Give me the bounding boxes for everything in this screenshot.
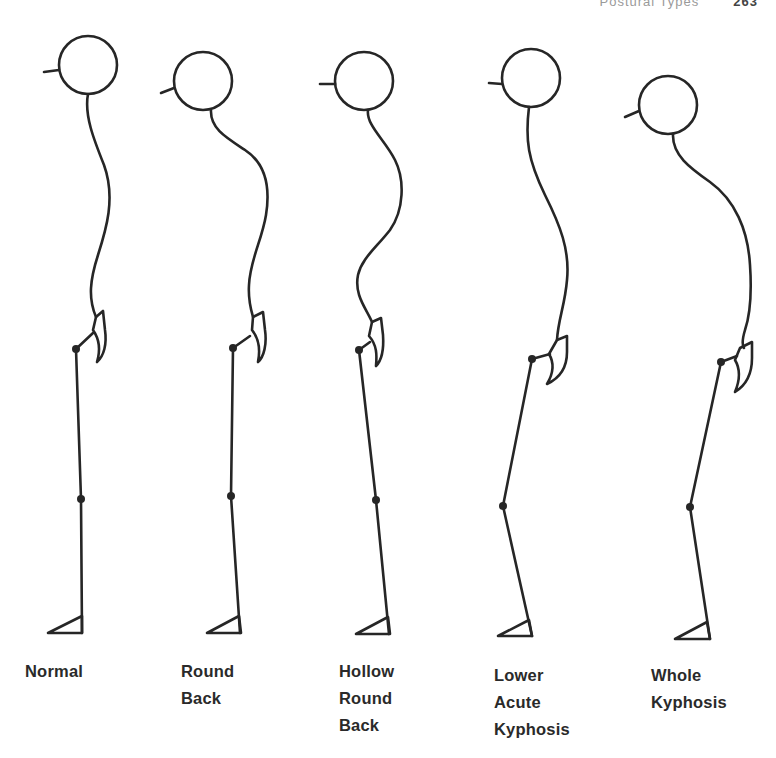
spine-curve <box>357 110 401 322</box>
foot-triangle <box>207 616 241 633</box>
face-line <box>489 83 502 84</box>
foot-triangle <box>48 616 82 633</box>
label-normal: Normal <box>25 658 83 685</box>
leg <box>359 350 389 634</box>
label-lower-acute-kyphosis: Lower Acute Kyphosis <box>494 662 570 743</box>
figure-whole-kyphosis <box>625 76 752 639</box>
posture-diagram: Postural Types263 <box>0 0 776 758</box>
knee-joint <box>372 496 380 504</box>
pelvis-shape <box>93 311 106 362</box>
label-round-back: Round Back <box>181 658 234 712</box>
head-icon <box>174 52 232 110</box>
knee-joint <box>227 492 235 500</box>
pelvis-shape <box>252 312 266 362</box>
face-line <box>161 88 174 93</box>
label-hollow-round-back: Hollow Round Back <box>339 658 394 739</box>
foot-triangle <box>498 620 532 636</box>
leg <box>503 359 532 636</box>
head-icon <box>59 36 117 94</box>
pelvis-shape <box>735 342 752 392</box>
leg <box>76 349 82 633</box>
spine-curve <box>87 94 109 317</box>
stick-figures <box>0 0 776 758</box>
label-whole-kyphosis: Whole Kyphosis <box>651 662 727 716</box>
spine-curve <box>211 110 268 317</box>
figure-normal <box>44 36 117 633</box>
figure-lower-acute-kyphosis <box>489 49 568 636</box>
foot-triangle <box>356 617 390 634</box>
figure-round-back <box>161 52 268 633</box>
face-line <box>44 70 59 72</box>
leg <box>231 348 240 633</box>
pelvis-shape <box>547 336 567 384</box>
spine-curve <box>673 134 751 348</box>
knee-joint <box>499 502 507 510</box>
head-icon <box>335 52 393 110</box>
foot-triangle <box>675 622 710 639</box>
head-icon <box>502 49 560 107</box>
knee-joint <box>686 503 694 511</box>
leg <box>690 362 721 639</box>
face-line <box>625 111 639 117</box>
figure-hollow-round-back <box>320 52 402 634</box>
spine-curve <box>527 107 567 340</box>
head-icon <box>639 76 697 134</box>
knee-joint <box>77 495 85 503</box>
